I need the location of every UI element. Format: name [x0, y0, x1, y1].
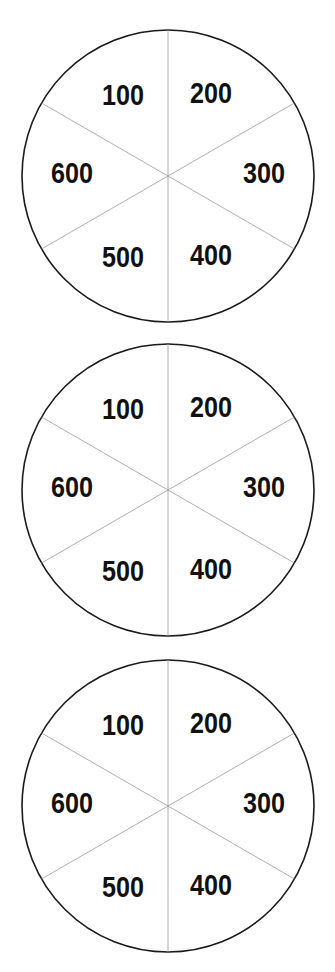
- segment-label: 200: [190, 706, 232, 739]
- segment-label: 300: [243, 156, 285, 189]
- segment-label: 300: [243, 470, 285, 503]
- segment-label: 600: [51, 786, 93, 819]
- segment-label: 400: [190, 868, 232, 901]
- segment-label: 100: [102, 708, 144, 741]
- wheel-2: 100200300400500600: [22, 344, 314, 636]
- segment-label: 200: [190, 390, 232, 423]
- segment-label: 100: [102, 78, 144, 111]
- wheel-1: 100200300400500600: [22, 30, 314, 322]
- segment-label: 400: [190, 552, 232, 585]
- segment-label: 200: [190, 76, 232, 109]
- wheels-canvas: 1002003004005006001002003004005006001002…: [0, 0, 335, 972]
- segment-label: 300: [243, 786, 285, 819]
- segment-label: 100: [102, 392, 144, 425]
- wheel-3: 100200300400500600: [22, 660, 314, 952]
- segment-label: 600: [51, 470, 93, 503]
- segment-label: 500: [102, 870, 144, 903]
- segment-label: 600: [51, 156, 93, 189]
- segment-label: 500: [102, 240, 144, 273]
- segment-label: 500: [102, 554, 144, 587]
- segment-label: 400: [190, 238, 232, 271]
